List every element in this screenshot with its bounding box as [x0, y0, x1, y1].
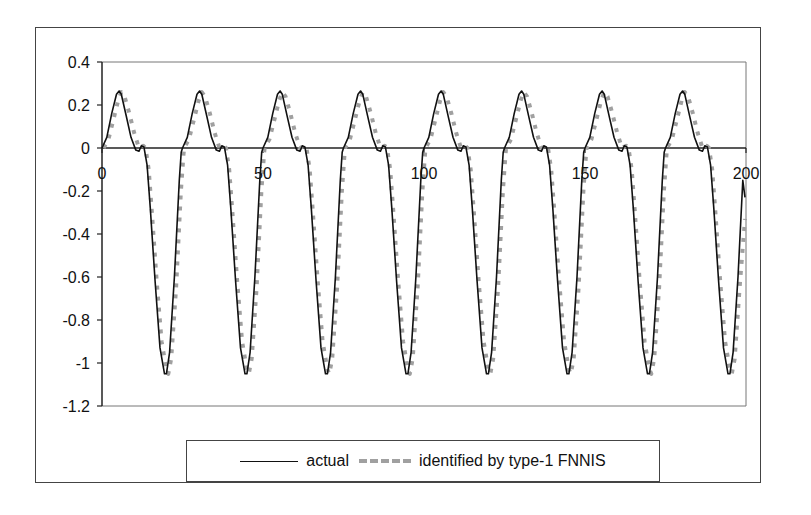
- x-tick-label: 100: [411, 165, 438, 182]
- series-identified-line: [104, 92, 745, 374]
- y-tick-label: 0: [81, 140, 90, 157]
- x-tick-label: 150: [572, 165, 599, 182]
- legend-label-identified: identified by type-1 FNNIS: [419, 452, 606, 470]
- plot-area-border: [102, 62, 746, 406]
- x-tick-label: 0: [98, 165, 107, 182]
- y-tick-label: -0.4: [62, 226, 90, 243]
- dashed-line-swatch-icon: [359, 459, 411, 463]
- y-tick-label: -1: [76, 355, 90, 372]
- y-tick-label: -0.2: [62, 183, 90, 200]
- legend-label-actual: actual: [306, 452, 349, 470]
- y-tick-label: -0.6: [62, 269, 90, 286]
- x-tick-label: 50: [254, 165, 272, 182]
- series-layer: [102, 91, 745, 374]
- legend: actual identified by type-1 FNNIS: [186, 440, 660, 482]
- solid-line-swatch-icon: [240, 461, 298, 462]
- y-tick-label: -0.8: [62, 312, 90, 329]
- x-tick-label: 200: [733, 165, 760, 182]
- axes: [97, 62, 746, 406]
- series-actual-line: [102, 91, 745, 374]
- legend-entry-actual: actual: [240, 452, 349, 470]
- line-chart: 0.40.20-0.2-0.4-0.6-0.8-1-1.205010015020…: [0, 0, 811, 515]
- y-tick-label: 0.2: [68, 97, 90, 114]
- legend-entry-identified: identified by type-1 FNNIS: [359, 452, 606, 470]
- y-tick-label: 0.4: [68, 54, 90, 71]
- y-tick-label: -1.2: [62, 398, 90, 415]
